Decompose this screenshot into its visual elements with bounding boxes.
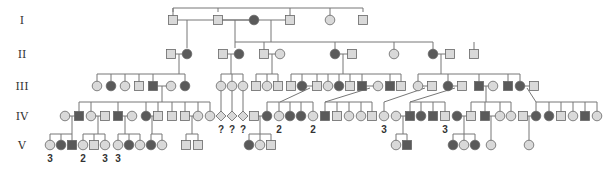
affected-male-symbol (321, 112, 330, 121)
unaffected-male-symbol (557, 112, 566, 121)
affected-female-symbol (330, 49, 340, 59)
unaffected-female-symbol (389, 49, 399, 59)
unaffected-male-symbol (135, 82, 144, 91)
unaffected-male-symbol (182, 141, 191, 150)
generation-labels: IIIIIIIVV (15, 14, 29, 152)
affected-male-symbol (68, 141, 77, 150)
unaffected-female-symbol (166, 81, 176, 91)
unaffected-male-symbol (90, 141, 99, 150)
sibling-count-label: 3 (442, 124, 448, 135)
pedigree-line (235, 42, 474, 50)
unaffected-female-symbol (495, 111, 505, 121)
affected-female-symbol (262, 111, 272, 121)
affected-male-symbol (406, 112, 415, 121)
unaffected-female-symbol (255, 140, 265, 150)
unaffected-female-symbol (227, 81, 237, 91)
unaffected-female-symbol (488, 81, 498, 91)
affected-female-symbol (470, 140, 480, 150)
unaffected-male-symbol (530, 82, 539, 91)
affected-female-symbol (234, 49, 244, 59)
unaffected-female-symbol (60, 111, 70, 121)
unaffected-male-symbol (359, 16, 368, 25)
generation-label: IV (16, 110, 29, 123)
affected-female-symbol (182, 49, 192, 59)
pedigree-line (187, 42, 235, 48)
pedigree-line (173, 8, 363, 12)
unaffected-female-symbol (92, 81, 102, 91)
unknown-sex-symbol (238, 111, 248, 121)
unknown-sex-symbol (227, 111, 237, 121)
unaffected-male-symbol (219, 50, 228, 59)
unaffected-male-symbol (214, 16, 223, 25)
unaffected-male-symbol (252, 82, 261, 91)
unaffected-male-symbol (348, 50, 357, 59)
unaffected-female-symbol (262, 81, 272, 91)
unaffected-female-symbol (592, 111, 602, 121)
unaffected-male-symbol (333, 112, 342, 121)
unaffected-male-symbol (470, 50, 479, 59)
unaffected-female-symbol (308, 111, 318, 121)
affected-female-symbol (515, 81, 525, 91)
sibling-count-label: 3 (381, 124, 387, 135)
generation-label: V (17, 139, 27, 152)
affected-female-symbol (146, 140, 156, 150)
affected-female-symbol (124, 140, 134, 150)
unaffected-female-symbol (524, 140, 534, 150)
unknown-sex-symbol (216, 111, 226, 121)
unaffected-female-symbol (325, 15, 335, 25)
unaffected-male-symbol (467, 112, 476, 121)
unaffected-male-symbol (101, 112, 110, 121)
affected-male-symbol (581, 112, 590, 121)
affected-male-symbol (504, 82, 513, 91)
affected-male-symbol (386, 82, 395, 91)
unaffected-female-symbol (379, 111, 389, 121)
affected-male-symbol (481, 112, 490, 121)
affected-male-symbol (114, 112, 123, 121)
unaffected-female-symbol (86, 111, 96, 121)
affected-female-symbol (296, 111, 306, 121)
unaffected-male-symbol (169, 16, 178, 25)
unaffected-male-symbol (428, 82, 437, 91)
unaffected-female-symbol (356, 111, 366, 121)
sibling-count-label: 3 (115, 153, 121, 164)
unaffected-female-symbol (373, 81, 383, 91)
affected-male-symbol (403, 141, 412, 150)
affected-female-symbol (334, 81, 344, 91)
unaffected-male-symbol (274, 82, 283, 91)
unaffected-female-symbol (120, 81, 130, 91)
unaffected-female-symbol (100, 140, 110, 150)
individuals (45, 15, 602, 150)
unaffected-male-symbol (267, 141, 276, 150)
unaffected-female-symbol (506, 111, 516, 121)
affected-female-symbol (249, 15, 259, 25)
unaffected-male-symbol (368, 112, 377, 121)
affected-female-symbol (443, 81, 453, 91)
unaffected-male-symbol (313, 82, 322, 91)
unknown-marker: ? (240, 124, 246, 135)
affected-female-symbol (141, 111, 151, 121)
unknown-marker: ? (229, 124, 235, 135)
affected-female-symbol (428, 49, 438, 59)
pedigree-line (291, 54, 401, 82)
sibling-count-label: 2 (310, 124, 316, 135)
unaffected-female-symbol (391, 111, 401, 121)
affected-female-symbol (531, 111, 541, 121)
unaffected-male-symbol (441, 112, 450, 121)
generation-label: I (20, 14, 24, 27)
pedigree-line (173, 8, 290, 16)
affected-female-symbol (106, 81, 116, 91)
sibling-count-label: 3 (102, 153, 108, 164)
unaffected-male-symbol (194, 141, 203, 150)
unaffected-female-symbol (459, 140, 469, 150)
unaffected-male-symbol (154, 112, 163, 121)
affected-female-symbol (297, 81, 307, 91)
unaffected-female-symbol (157, 140, 167, 150)
unaffected-male-symbol (346, 82, 355, 91)
unaffected-male-symbol (519, 112, 528, 121)
unaffected-female-symbol (391, 140, 401, 150)
unaffected-female-symbol (216, 81, 226, 91)
affected-female-symbol (416, 111, 426, 121)
affected-male-symbol (149, 82, 158, 91)
unaffected-female-symbol (274, 111, 284, 121)
unaffected-male-symbol (458, 82, 467, 91)
